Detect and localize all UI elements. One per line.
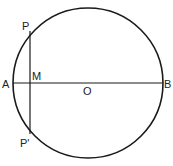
label-o: O: [83, 85, 92, 97]
label-p: P: [22, 20, 29, 32]
label-m: M: [32, 70, 41, 82]
label-p-prime: P': [20, 137, 29, 149]
circle-diagram: P M A O B P': [0, 0, 173, 166]
label-a: A: [2, 78, 10, 90]
label-b: B: [164, 78, 171, 90]
